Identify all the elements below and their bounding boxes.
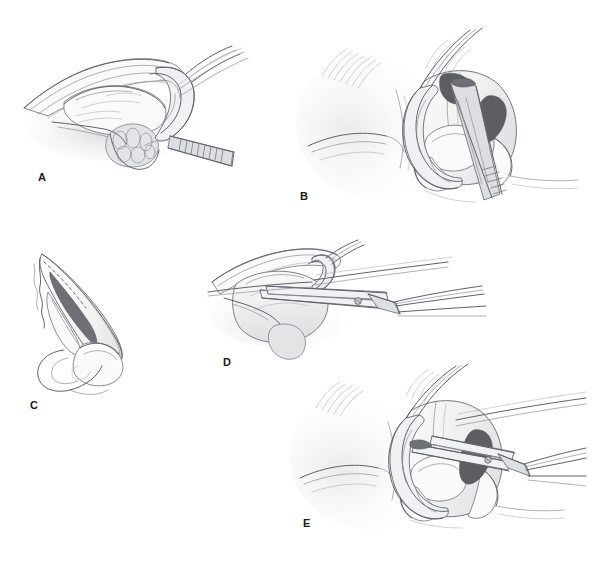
panel-a-illustration xyxy=(18,30,258,180)
panel-e-lip-contour xyxy=(496,506,564,511)
figure-canvas: A xyxy=(0,0,594,562)
panel-label-c: C xyxy=(30,400,38,411)
panel-label-a: A xyxy=(38,172,46,183)
panel-b-lip-contour xyxy=(510,176,578,181)
panel-a-lobular-tissue xyxy=(106,124,159,169)
panel-label-e: E xyxy=(303,518,311,529)
panel-d-columella-tissue xyxy=(268,324,305,359)
panel-c-illustration xyxy=(28,248,153,393)
panel-e-illustration xyxy=(296,366,588,526)
panel-c-upper-lip xyxy=(70,390,108,395)
panel-d-illustration xyxy=(208,244,488,362)
panel-label-d: D xyxy=(223,357,231,368)
panel-label-b: B xyxy=(300,191,308,202)
panel-b-illustration xyxy=(300,18,590,213)
